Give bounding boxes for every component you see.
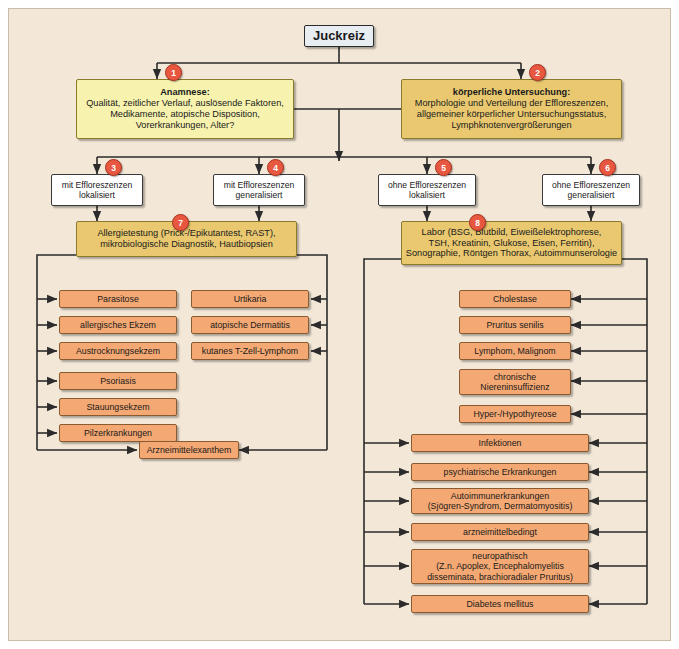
left-b-1-line-1: atopische Dermatitis (192, 320, 308, 330)
node-anamnese-title: Anamnese: (74, 87, 296, 98)
workup-7-line-2: mikrobiologische Diagnostik, Hautbiopsie… (74, 239, 299, 250)
right-wide-2-line-2: (Sjögren-Syndrom, Dermatomyositis) (409, 501, 591, 511)
left-a-5-line-1: Pilzerkrankungen (60, 428, 176, 438)
left-b-0-line-1: Urtikaria (192, 294, 308, 304)
badge-6: 6 (599, 159, 616, 176)
branch-4-line-1: mit Effloreszenzen (211, 180, 307, 190)
branch-4-line-2: generalisiert (211, 190, 307, 200)
right-wide-1-line-1: psychiatrische Erkrankungen (412, 467, 588, 477)
node-juckreiz[interactable]: Juckreiz (304, 25, 374, 47)
node-allergisches-ekzem[interactable]: allergisches Ekzem (59, 316, 177, 334)
right-wide-4-line-1: neuropathisch (409, 551, 591, 561)
workup-7-line-1: Allergietestung (Prick-/Epikutantest, RA… (74, 228, 299, 239)
right-wide-3-line-1: arzneimittelbedingt (412, 527, 588, 537)
node-psychiatrische-erkrankungen[interactable]: psychiatrische Erkrankungen (411, 463, 589, 481)
right-narrow-0-line-1: Cholestase (460, 294, 570, 304)
node-austrocknungsekzem[interactable]: Austrocknungsekzem (59, 342, 177, 360)
node-diabetes-mellitus[interactable]: Diabetes mellitus (411, 595, 589, 613)
branch-5-line-2: lokalisiert (376, 190, 478, 200)
node-neuropathisch[interactable]: neuropathisch (Z.n. Apoplex, Encephalomy… (411, 549, 589, 584)
workup-8-line-1: Labor (BSG, Blutbild, Eiweißelektrophore… (399, 227, 624, 238)
right-narrow-3-line-2: Niereninsuffizienz (457, 382, 573, 392)
node-pilzerkrankungen[interactable]: Pilzerkrankungen (59, 424, 177, 442)
left-b-2-line-1: kutanes T-Zell-Lymphom (192, 346, 308, 356)
node-branch-ohne-effloreszenzen-generalisiert[interactable]: ohne Effloreszenzen generalisiert (542, 174, 640, 206)
diagram-canvas: Juckreiz 1 Anamnese: Qualität, zeitliche… (9, 9, 672, 642)
node-autoimmunerkrankungen[interactable]: Autoimmunerkrankungen (Sjögren-Syndrom, … (411, 488, 589, 514)
right-wide-5-line-1: Diabetes mellitus (412, 599, 588, 609)
badge-8: 8 (469, 214, 486, 231)
node-arzneimittelbedingt[interactable]: arzneimittelbedingt (411, 523, 589, 541)
node-anamnese-line-1: Qualität, zeitlicher Verlauf, auslösende… (74, 98, 296, 109)
badge-4: 4 (267, 159, 284, 176)
right-narrow-1-line-1: Pruritus senilis (460, 320, 570, 330)
left-a-0-line-1: Parasitose (60, 294, 176, 304)
right-wide-2-line-1: Autoimmunerkrankungen (409, 491, 591, 501)
right-narrow-3-line-1: chronische (457, 372, 573, 382)
right-narrow-4-line-1: Hyper-/Hypothyreose (460, 409, 570, 419)
workup-8-line-3: Sonographie, Röntgen Thorax, Autoimmunse… (399, 248, 624, 259)
shared-left-line-1: Arzneimittelexanthem (140, 445, 238, 455)
node-anamnese-line-2: Medikamente, atopische Disposition, (74, 109, 296, 120)
node-psoriasis[interactable]: Psoriasis (59, 372, 177, 390)
node-untersuchung-title: körperliche Untersuchung: (399, 87, 624, 98)
badge-2: 2 (529, 64, 546, 81)
node-koerperliche-untersuchung[interactable]: körperliche Untersuchung: Morphologie un… (401, 79, 622, 139)
node-chronische-niereninsuffizienz[interactable]: chronische Niereninsuffizienz (459, 369, 571, 395)
branch-3-line-1: mit Effloreszenzen (49, 180, 145, 190)
branch-3-line-2: lokalisiert (49, 190, 145, 200)
node-cholestase[interactable]: Cholestase (459, 290, 571, 308)
left-a-4-line-1: Stauungsekzem (60, 402, 176, 412)
node-anamnese[interactable]: Anamnese: Qualität, zeitlicher Verlauf, … (76, 79, 294, 139)
node-branch-mit-effloreszenzen-generalisiert[interactable]: mit Effloreszenzen generalisiert (213, 174, 305, 206)
branch-6-line-1: ohne Effloreszenzen (540, 180, 642, 190)
node-juckreiz-label: Juckreiz (305, 28, 373, 43)
node-untersuchung-line-1: Morphologie und Verteilung der Effloresz… (399, 98, 624, 109)
right-wide-4-line-3: disseminata, brachioradialer Pruritus) (409, 572, 591, 582)
left-a-1-line-1: allergisches Ekzem (60, 320, 176, 330)
right-wide-4-line-2: (Z.n. Apoplex, Encephalomyelitis (409, 561, 591, 571)
left-a-2-line-1: Austrocknungsekzem (60, 346, 176, 356)
diagram-page: Juckreiz 1 Anamnese: Qualität, zeitliche… (0, 0, 679, 649)
node-urtikaria[interactable]: Urtikaria (191, 290, 309, 308)
right-narrow-2-line-1: Lymphom, Malignom (460, 346, 570, 356)
badge-5: 5 (435, 159, 452, 176)
node-infektionen[interactable]: Infektionen (411, 434, 589, 452)
node-branch-mit-effloreszenzen-lokalisiert[interactable]: mit Effloreszenzen lokalisiert (51, 174, 143, 206)
node-parasitose[interactable]: Parasitose (59, 290, 177, 308)
node-atopische-dermatitis[interactable]: atopische Dermatitis (191, 316, 309, 334)
node-stauungsekzem[interactable]: Stauungsekzem (59, 398, 177, 416)
node-hyper-hypothyreose[interactable]: Hyper-/Hypothyreose (459, 405, 571, 423)
branch-6-line-2: generalisiert (540, 190, 642, 200)
diagram-frame: Juckreiz 1 Anamnese: Qualität, zeitliche… (8, 8, 671, 641)
branch-5-line-1: ohne Effloreszenzen (376, 180, 478, 190)
left-a-3-line-1: Psoriasis (60, 376, 176, 386)
node-lymphom-malignom[interactable]: Lymphom, Malignom (459, 342, 571, 360)
badge-1: 1 (165, 64, 182, 81)
node-pruritus-senilis[interactable]: Pruritus senilis (459, 316, 571, 334)
node-untersuchung-line-2: allgemeiner körperlicher Untersuchungsst… (399, 109, 624, 120)
workup-8-line-2: TSH, Kreatinin, Glukose, Eisen, Ferritin… (399, 238, 624, 249)
node-labor[interactable]: Labor (BSG, Blutbild, Eiweißelektrophore… (401, 221, 622, 265)
node-arzneimittelexanthem[interactable]: Arzneimittelexanthem (139, 441, 239, 459)
node-branch-ohne-effloreszenzen-lokalisiert[interactable]: ohne Effloreszenzen lokalisiert (378, 174, 476, 206)
node-anamnese-line-3: Vorerkrankungen, Alter? (74, 120, 296, 131)
node-kutanes-t-zell-lymphom[interactable]: kutanes T-Zell-Lymphom (191, 342, 309, 360)
right-wide-0-line-1: Infektionen (412, 438, 588, 448)
badge-7: 7 (172, 214, 189, 231)
node-untersuchung-line-3: Lymphknotenvergrößerungen (399, 120, 624, 131)
badge-3: 3 (105, 159, 122, 176)
